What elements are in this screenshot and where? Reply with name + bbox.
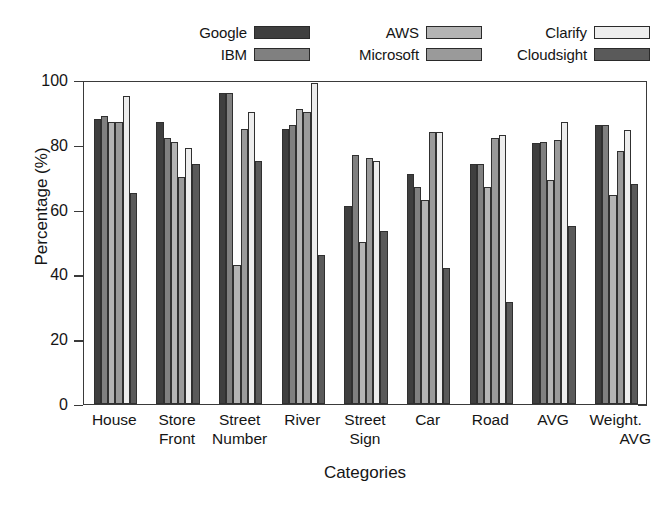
- legend-item-aws: AWS: [322, 22, 482, 43]
- bar-group: [344, 82, 387, 404]
- bar: [547, 180, 554, 404]
- x-axis-tick-label-line2: Number: [202, 429, 277, 448]
- legend-swatch-aws: [426, 26, 482, 39]
- bar: [344, 206, 351, 404]
- legend-label-microsoft: Microsoft: [359, 47, 419, 62]
- bar: [352, 155, 359, 404]
- legend-item-cloudsight: Cloudsight: [490, 44, 650, 65]
- bar: [192, 164, 199, 404]
- legend-column-2: AWS Microsoft: [322, 22, 482, 68]
- bar: [414, 187, 421, 404]
- bar: [311, 83, 318, 404]
- y-axis-tick-mark-right: [638, 405, 647, 406]
- legend-item-microsoft: Microsoft: [322, 44, 482, 65]
- bar: [617, 151, 624, 404]
- bar: [554, 140, 561, 404]
- y-axis-tick-label: 20: [4, 332, 68, 348]
- bar-group: [470, 82, 513, 404]
- y-axis-tick-mark: [74, 146, 83, 147]
- legend-label-cloudsight: Cloudsight: [517, 47, 587, 62]
- bar: [303, 112, 310, 404]
- y-axis-tick-mark: [74, 275, 83, 276]
- bar: [609, 195, 616, 404]
- bar: [506, 302, 513, 404]
- bar: [421, 200, 428, 404]
- legend-swatch-ibm: [254, 48, 310, 61]
- bar: [595, 125, 602, 404]
- bar-group: [532, 82, 575, 404]
- bar: [255, 161, 262, 404]
- bar: [540, 142, 547, 404]
- bar: [130, 193, 137, 404]
- y-axis-tick-mark: [74, 81, 83, 82]
- bar: [296, 109, 303, 404]
- bar: [164, 138, 171, 404]
- legend-label-aws: AWS: [386, 25, 419, 40]
- bar-group: [595, 82, 638, 404]
- y-axis-tick-label: 0: [4, 397, 68, 413]
- legend-item-clarify: Clarify: [490, 22, 650, 43]
- bar-group: [156, 82, 199, 404]
- bar: [477, 164, 484, 404]
- bar: [233, 265, 240, 404]
- x-axis-tick-label-line2: Sign: [328, 429, 403, 448]
- bar: [631, 184, 638, 404]
- bar: [226, 93, 233, 404]
- bar: [484, 187, 491, 404]
- bar: [318, 255, 325, 404]
- legend-item-google: Google: [150, 22, 310, 43]
- bar: [491, 138, 498, 404]
- bar: [602, 125, 609, 404]
- bar-chart: Google IBM AWS Microsoft Clarify: [0, 0, 672, 512]
- bar: [624, 130, 631, 404]
- legend-swatch-clarify: [594, 26, 650, 39]
- bar: [499, 135, 506, 404]
- bar: [470, 164, 477, 404]
- y-axis-title: Percentage (%): [33, 82, 50, 332]
- bar: [219, 93, 226, 404]
- bar: [101, 116, 108, 404]
- bar: [108, 122, 115, 404]
- bar-group: [94, 82, 137, 404]
- x-axis-tick-label-line1: Weight.: [578, 410, 653, 429]
- bar-group: [282, 82, 325, 404]
- legend-label-clarify: Clarify: [545, 25, 587, 40]
- bar: [532, 143, 539, 404]
- bar: [94, 119, 101, 404]
- legend-column-3: Clarify Cloudsight: [490, 22, 650, 68]
- chart-legend: Google IBM AWS Microsoft Clarify: [150, 22, 650, 68]
- plot-area: [83, 81, 647, 405]
- bar: [282, 129, 289, 404]
- bar: [443, 268, 450, 404]
- bar: [123, 96, 130, 404]
- bar: [568, 226, 575, 404]
- bar: [373, 161, 380, 404]
- bar: [366, 158, 373, 404]
- bar: [115, 122, 122, 404]
- bar: [359, 242, 366, 404]
- legend-label-ibm: IBM: [221, 47, 247, 62]
- bars-layer: [84, 82, 646, 404]
- x-axis-tick-labels: HouseStoreFrontStreetNumberRiverStreetSi…: [83, 410, 647, 462]
- y-axis-tick-mark: [74, 340, 83, 341]
- legend-item-ibm: IBM: [150, 44, 310, 65]
- bar: [171, 142, 178, 404]
- legend-swatch-microsoft: [426, 48, 482, 61]
- bar: [178, 177, 185, 404]
- bar: [241, 129, 248, 404]
- bar: [561, 122, 568, 404]
- bar: [248, 112, 255, 404]
- bar: [436, 132, 443, 404]
- legend-swatch-google: [254, 26, 310, 39]
- legend-swatch-cloudsight: [594, 48, 650, 61]
- bar: [407, 174, 414, 404]
- bar: [289, 125, 296, 404]
- bar: [156, 122, 163, 404]
- legend-label-google: Google: [199, 25, 247, 40]
- bar-group: [219, 82, 262, 404]
- bar: [380, 231, 387, 404]
- x-axis-tick-label: Weight.AVG: [578, 410, 653, 448]
- x-axis-title: Categories: [83, 464, 647, 481]
- bar-group: [407, 82, 450, 404]
- y-axis-tick-mark: [74, 211, 83, 212]
